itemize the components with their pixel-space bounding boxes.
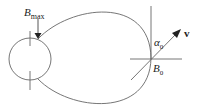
magnetic-mirror-diagram: Bmax α0 v B0 — [0, 0, 201, 112]
alpha0-label: α0 — [154, 36, 164, 51]
bmax-label: Bmax — [24, 6, 45, 21]
velocity-label: v — [184, 27, 190, 39]
b0-label: B0 — [153, 62, 164, 77]
field-line-loop — [38, 12, 151, 104]
